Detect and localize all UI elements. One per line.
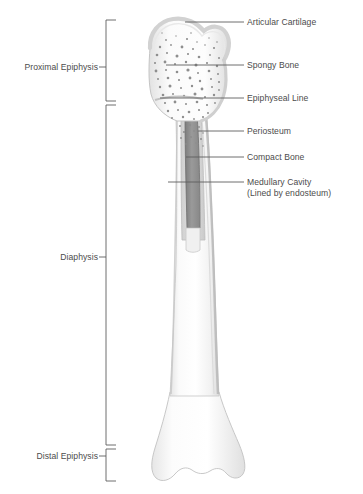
label-diaphysis: Diaphysis [12, 252, 98, 263]
label-proximal-epiphysis: Proximal Epiphysis [12, 62, 98, 73]
label-compact-bone: Compact Bone [247, 152, 304, 163]
label-spongy-bone: Spongy Bone [247, 60, 299, 71]
label-medullary-cavity-note: (Lined by endosteum) [247, 188, 331, 199]
label-medullary-cavity: Medullary Cavity [247, 177, 311, 188]
label-articular-cartilage: Articular Cartilage [247, 17, 316, 28]
bracket-proximal-epiphysis [106, 20, 116, 101]
label-epiphyseal-line: Epiphyseal Line [247, 93, 308, 104]
long-bone-diagram [0, 0, 363, 494]
bracket-distal-epiphysis [106, 449, 116, 481]
label-periosteum: Periosteum [247, 126, 291, 137]
label-distal-epiphysis: Distal Epiphysis [12, 451, 98, 462]
medullary-cavity-distal-end [186, 228, 200, 252]
bracket-diaphysis [106, 105, 116, 445]
distal-epiphysis-body [152, 392, 245, 481]
bone-illustration [149, 19, 245, 481]
left-brackets [99, 20, 116, 481]
medullary-cavity-core [185, 112, 200, 228]
